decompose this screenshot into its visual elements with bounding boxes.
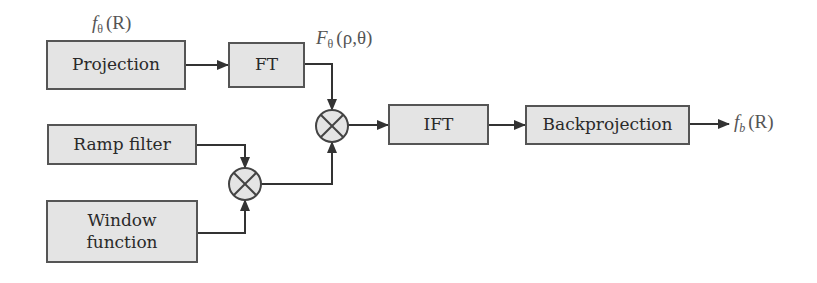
- signal-label-output: fb(R): [734, 111, 774, 136]
- signal-label-input-arg: (R): [106, 12, 131, 33]
- block-ft: FT: [228, 42, 305, 88]
- block-backprojection-label: Backprojection: [543, 114, 673, 135]
- block-ift: IFT: [388, 104, 489, 145]
- edge-mult-filter-to-mult-main: [261, 142, 332, 184]
- block-window-function-label-line2: function: [86, 232, 157, 253]
- edge-ft-to-mult-main: [305, 64, 332, 110]
- block-projection: Projection: [46, 40, 186, 90]
- block-window-function: Window function: [46, 200, 198, 263]
- fbp-block-diagram: Projection FT Ramp filter Window functio…: [0, 0, 817, 283]
- signal-label-ft-output-base: F: [316, 27, 328, 48]
- multiply-icon-filter: [229, 168, 261, 200]
- signal-label-input: fθ(R): [92, 12, 131, 37]
- block-window-function-label-line1: Window: [87, 210, 156, 231]
- block-ramp-filter: Ramp filter: [47, 124, 197, 165]
- edge-window-to-mult-filter: [198, 200, 245, 233]
- block-projection-label: Projection: [72, 54, 160, 75]
- signal-label-ft-output-sub: θ: [328, 37, 334, 51]
- signal-label-ft-output-arg: (ρ,θ): [336, 27, 372, 48]
- block-ramp-filter-label: Ramp filter: [73, 134, 171, 155]
- signal-label-ft-output: Fθ(ρ,θ): [316, 27, 372, 52]
- signal-label-output-arg: (R): [748, 111, 773, 132]
- block-ft-label: FT: [255, 54, 278, 75]
- multiply-icon-main: [316, 110, 348, 142]
- signal-label-output-sub: b: [739, 121, 745, 135]
- block-backprojection: Backprojection: [525, 105, 690, 145]
- edge-ramp-to-mult-filter: [197, 145, 245, 168]
- signal-label-input-sub: θ: [97, 22, 103, 36]
- block-ift-label: IFT: [424, 114, 454, 135]
